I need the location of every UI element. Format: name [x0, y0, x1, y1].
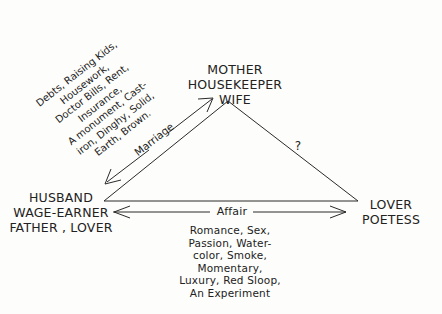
node-left-line3: FATHER , LOVER [0, 220, 122, 235]
affair-attr: An Experiment [175, 287, 285, 300]
unknown-edge-label: ? [290, 139, 306, 153]
node-left-line1: HUSBAND [0, 190, 122, 205]
affair-attr: Momentary, [175, 262, 285, 275]
affair-attr: Passion, Water- [175, 237, 285, 250]
node-left-line2: WAGE-EARNER [0, 205, 122, 220]
affair-attr: Luxury, Red Sloop, [175, 274, 285, 287]
node-top-line3: WIFE [185, 92, 285, 107]
node-lover-poetess: LOVER POETESS [356, 197, 426, 227]
node-right-line1: LOVER [356, 197, 426, 212]
node-top-line2: HOUSEKEEPER [185, 77, 285, 92]
node-husband: HUSBAND WAGE-EARNER FATHER , LOVER [0, 190, 122, 235]
affair-label: Affair [210, 205, 254, 219]
affair-attr: color, Smoke, [175, 249, 285, 262]
affair-attributes: Romance, Sex, Passion, Water- color, Smo… [175, 224, 285, 299]
affair-attr: Romance, Sex, [175, 224, 285, 237]
node-mother-housekeeper-wife: MOTHER HOUSEKEEPER WIFE [185, 62, 285, 107]
node-top-line1: MOTHER [185, 62, 285, 77]
node-right-line2: POETESS [356, 212, 426, 227]
